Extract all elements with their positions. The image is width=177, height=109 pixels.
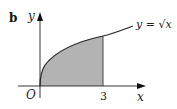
y-axis-label: y [27,9,35,23]
x-axis-label: x [137,90,144,104]
x-tick-3: 3 [100,90,107,103]
area-under-curve-diagram: b y O 3 x y = √x [0,0,177,109]
curve-label: y = √x [135,18,172,31]
part-label: b [9,11,17,25]
shaded-area [40,36,103,86]
x-axis-arrow-icon [137,83,146,89]
origin-label: O [26,88,36,102]
y-axis-arrow-icon [37,12,43,21]
